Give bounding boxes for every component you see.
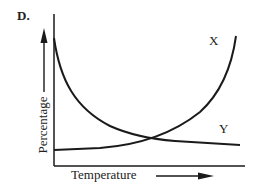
figure-label: D. bbox=[17, 8, 30, 24]
y-axis-title: Percentage bbox=[35, 96, 51, 153]
x-axis-arrow-icon bbox=[156, 173, 214, 180]
curve-x bbox=[54, 36, 236, 150]
x-axis-title: Temperature bbox=[71, 167, 137, 183]
curve-y bbox=[54, 38, 240, 145]
curve-y-label: Y bbox=[219, 121, 228, 137]
y-axis-arrow-icon bbox=[41, 28, 48, 92]
curve-x-label: X bbox=[209, 33, 218, 49]
